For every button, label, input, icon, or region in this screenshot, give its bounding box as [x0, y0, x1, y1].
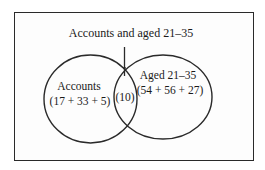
intersection-value: (10) — [115, 91, 134, 104]
accounts-values: (17 + 33 + 5) — [50, 95, 111, 108]
aged-21-35-values: (54 + 56 + 27) — [137, 84, 204, 97]
intersection-title-label: Accounts and aged 21–35 — [69, 27, 193, 40]
intersection-point — [123, 67, 126, 70]
accounts-label: Accounts — [57, 80, 100, 93]
aged-21-35-label: Aged 21–35 — [140, 69, 197, 82]
